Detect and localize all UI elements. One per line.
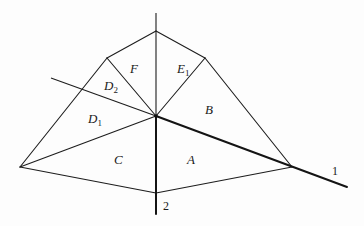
region-label-a: A xyxy=(187,153,195,169)
diagram-svg xyxy=(0,0,364,226)
axis-1-label: 1 xyxy=(332,165,338,177)
center-vertex xyxy=(154,114,158,118)
region-label-c: C xyxy=(114,153,123,169)
region-label-d1: D1 xyxy=(88,112,102,128)
axis-2-label: 2 xyxy=(163,200,169,212)
edge-top-upperleft xyxy=(107,31,156,58)
region-label-b: B xyxy=(205,103,213,119)
edge-bottom-right xyxy=(156,167,292,193)
diagram-canvas: F E1 D2 D1 B C A 1 2 xyxy=(0,0,364,226)
edge-left-bottom xyxy=(20,167,156,193)
edge-top-upperright xyxy=(156,31,205,58)
region-label-d2: D2 xyxy=(104,79,118,95)
region-label-e1: E1 xyxy=(177,62,189,78)
region-label-f: F xyxy=(130,62,138,78)
axis-1-lower-segment xyxy=(156,116,347,187)
